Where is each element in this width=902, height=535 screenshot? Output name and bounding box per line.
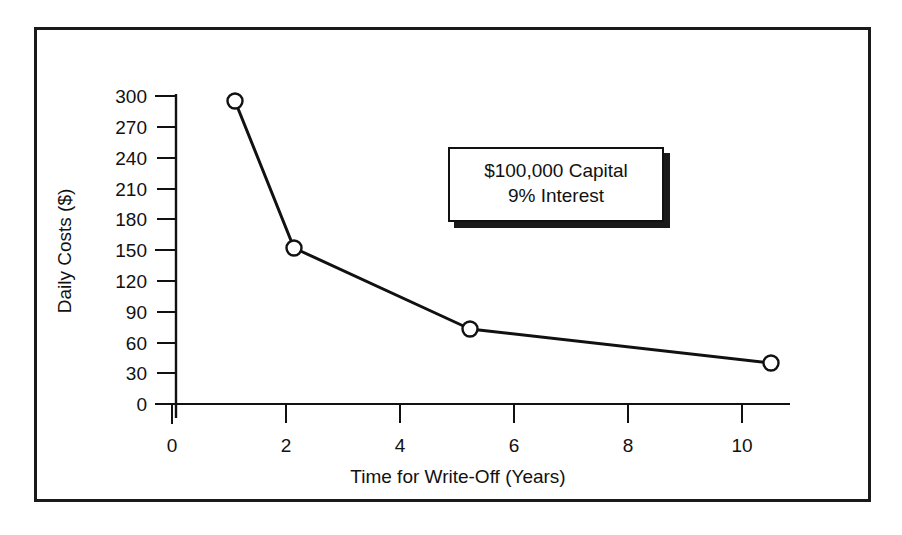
y-tick-label-300: 300 — [83, 87, 147, 106]
data-point — [287, 241, 302, 256]
y-tick-label-270: 270 — [83, 118, 147, 137]
y-tick-label-150: 150 — [83, 241, 147, 260]
data-point — [764, 356, 779, 371]
y-axis-title: Daily Costs ($) — [54, 151, 76, 351]
annotation-line-interest: 9% Interest — [450, 183, 662, 208]
x-tick-label-10: 10 — [722, 436, 762, 455]
x-tick-label-4: 4 — [380, 436, 420, 455]
data-series-line — [235, 101, 771, 363]
data-point — [228, 94, 243, 109]
x-tick-label-2: 2 — [266, 436, 306, 455]
y-tick-label-210: 210 — [83, 180, 147, 199]
x-tick-label-0: 0 — [152, 436, 192, 455]
y-tick-label-0: 0 — [83, 395, 147, 414]
annotation-line-capital: $100,000 Capital — [450, 158, 662, 183]
y-tick-label-90: 90 — [83, 303, 147, 322]
x-axis-title: Time for Write-Off (Years) — [172, 466, 744, 488]
x-axis-ticks — [172, 404, 742, 424]
y-tick-label-60: 60 — [83, 334, 147, 353]
y-tick-label-30: 30 — [83, 364, 147, 383]
annotation-callout: $100,000 Capital 9% Interest — [448, 147, 664, 222]
data-point-markers — [228, 94, 779, 371]
y-tick-label-240: 240 — [83, 149, 147, 168]
x-tick-label-6: 6 — [494, 436, 534, 455]
x-tick-label-8: 8 — [608, 436, 648, 455]
y-axis-ticks — [155, 96, 176, 404]
data-point — [463, 322, 478, 337]
y-tick-label-180: 180 — [83, 210, 147, 229]
line-chart: 300 270 240 210 180 150 120 90 60 30 0 0… — [0, 0, 902, 535]
y-tick-label-120: 120 — [83, 272, 147, 291]
chart-canvas — [0, 0, 902, 535]
